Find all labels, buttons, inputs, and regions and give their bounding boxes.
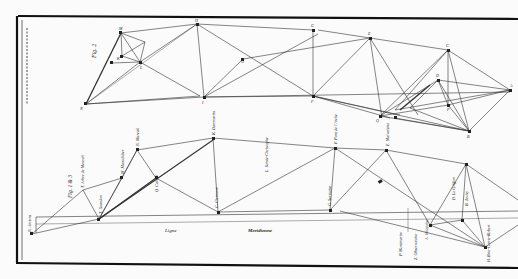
fig2-station-F: F xyxy=(310,99,314,104)
fig2-station-C: C xyxy=(446,43,449,48)
station-label-montdidier: M. Montdidier xyxy=(120,149,125,175)
fig2-station-O: O xyxy=(241,59,244,64)
station-label-sermoise: G. Sermoise xyxy=(327,185,332,206)
fig2-station-H: H xyxy=(194,18,199,23)
fig2-station-P: P xyxy=(446,107,450,112)
fig2-station-B: B xyxy=(467,134,470,139)
station-label-christophe: L. Sainte-Christophe xyxy=(264,137,269,173)
baseline-word-meridienne: Meridienne xyxy=(247,228,273,233)
station-label-villejuive: A. Villejuive xyxy=(424,219,429,241)
station-label-montmartre: P. Montmartre xyxy=(398,232,403,257)
station-label-clermont: C. Clermont xyxy=(214,186,219,208)
station-label-coivrel: Q. Coivrel xyxy=(154,174,159,192)
fig2-station-K: K xyxy=(116,56,120,61)
triangulation-plate: Fig. 2 xyxy=(0,0,518,279)
fig2-station-I: I xyxy=(201,100,204,105)
fig2-station-A: A xyxy=(509,83,513,88)
station-label-mareuil: N. Mareuil xyxy=(135,127,140,147)
station-label-sourdon: X. Sourdon xyxy=(98,195,103,215)
fig2-station-N: N xyxy=(79,106,83,111)
station-label-malvoisine: E. Malvoisine xyxy=(385,123,390,147)
station-label-griffon: D. Le Griffon xyxy=(451,177,456,201)
fig2-station-E: E xyxy=(367,31,371,36)
station-label-amiens: N. Amiens xyxy=(27,214,32,233)
station-label-observatoire: Z. Observatoire xyxy=(413,233,418,260)
fig1-network xyxy=(32,138,518,247)
fig1-label: Fig. 1 & 3 xyxy=(67,175,73,199)
fig2-station-M: M xyxy=(118,26,123,31)
fig2-label: Fig. 2 xyxy=(91,44,97,59)
baseline-word-ligne: Ligne xyxy=(164,228,177,233)
fig2-station-Q: Q xyxy=(376,118,379,123)
station-label-dammartin: K. Dammartin xyxy=(211,111,216,136)
fig2-station-D: D xyxy=(435,73,439,78)
fig2-station-L: L xyxy=(139,65,143,70)
station-label-pont: F. Pont de l'Arche xyxy=(333,114,338,145)
fig2-station-G: G xyxy=(311,23,314,28)
station-label-juvisy: B. Juvisy xyxy=(464,191,469,206)
fig2-network xyxy=(86,24,510,131)
station-label-brie: H. Brie-Comte-Robert xyxy=(486,224,491,263)
fig1-labels: Fig. 1 & 3 Ligne Meridienne N. Amiens T.… xyxy=(27,111,491,263)
station-label-arbre: T. Arbre de Mereuil xyxy=(80,154,85,188)
